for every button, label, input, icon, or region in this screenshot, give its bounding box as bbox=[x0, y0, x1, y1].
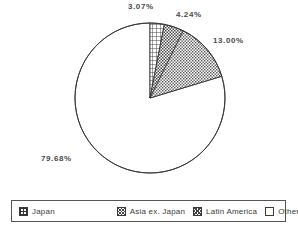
legend-item-asia-ex-japan: Asia ex. Japan bbox=[117, 207, 185, 216]
pie-label-latin-america: 13.00% bbox=[213, 36, 244, 45]
checker-swatch-icon bbox=[117, 207, 126, 216]
legend-item-latin-america: Latin America bbox=[193, 207, 257, 216]
chart-legend: Japan Asia ex. Japan Latin America Other bbox=[11, 200, 286, 222]
pie-svg bbox=[0, 0, 298, 196]
legend-label-latin-america: Latin America bbox=[206, 207, 257, 216]
pie-chart-figure: 3.07% 4.24% 13.00% 79.68% Japan Asia ex.… bbox=[0, 0, 298, 236]
pie-label-asia: 4.24% bbox=[176, 10, 202, 19]
legend-item-other: Other bbox=[265, 207, 298, 216]
legend-label-asia-ex-japan: Asia ex. Japan bbox=[130, 207, 185, 216]
legend-item-japan: Japan bbox=[19, 207, 55, 216]
empty-swatch-icon bbox=[265, 207, 274, 216]
grid-swatch-icon bbox=[19, 207, 28, 216]
pie-plot-area: 3.07% 4.24% 13.00% 79.68% bbox=[0, 0, 298, 196]
legend-label-other: Other bbox=[278, 207, 298, 216]
diagonal-swatch-icon bbox=[193, 207, 202, 216]
legend-label-japan: Japan bbox=[32, 207, 55, 216]
pie-label-other: 79.68% bbox=[41, 154, 72, 163]
pie-label-japan: 3.07% bbox=[128, 2, 154, 11]
